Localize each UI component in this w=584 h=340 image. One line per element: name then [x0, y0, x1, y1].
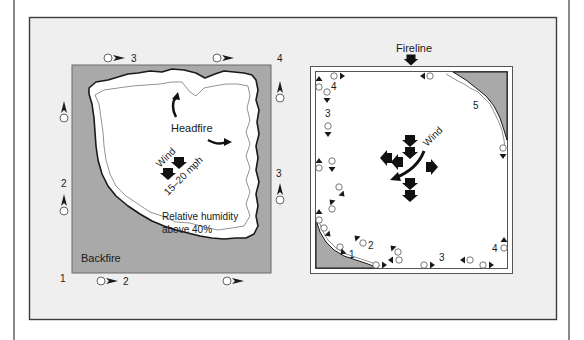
- humidity-label-line2: above 40%: [162, 224, 212, 235]
- right-burn-unit: Fireline Wind 4 3 5 2 1 3 4: [311, 42, 513, 274]
- ignition-number: 2: [61, 178, 67, 189]
- ignition-number: 2: [123, 276, 129, 287]
- ignition-number: 4: [492, 243, 498, 254]
- ignition-number: 1: [349, 249, 355, 260]
- ignition-number: 5: [473, 100, 479, 111]
- ignition-number: 3: [131, 53, 137, 64]
- headfire-label: Headfire: [171, 122, 213, 134]
- ignition-number: 4: [277, 53, 283, 64]
- ignition-number: 3: [276, 168, 282, 179]
- fireline-label: Fireline: [396, 42, 432, 54]
- backfire-label: Backfire: [81, 252, 121, 264]
- ignition-number: 2: [368, 240, 374, 251]
- prescribed-burn-diagram: Headfire Wind 15–20 mph Relative humidit…: [0, 0, 584, 340]
- ignition-number: 3: [439, 252, 445, 263]
- ignition-number: 1: [60, 273, 66, 284]
- ignition-number: 3: [325, 108, 331, 119]
- ignition-number: 4: [331, 81, 337, 92]
- humidity-label-line1: Relative humidity: [162, 211, 238, 222]
- left-burn-unit: Headfire Wind 15–20 mph Relative humidit…: [60, 53, 284, 287]
